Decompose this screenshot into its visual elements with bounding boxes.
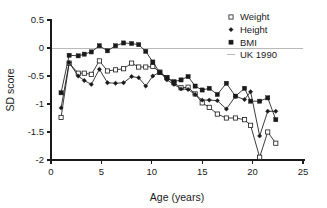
data-point-weight <box>105 69 109 73</box>
data-point-bmi <box>248 99 252 103</box>
data-point-height <box>97 67 101 71</box>
data-point-weight <box>215 112 219 116</box>
data-point-bmi <box>76 54 80 58</box>
data-point-height <box>113 81 117 85</box>
legend-marker-weight <box>229 15 233 19</box>
data-point-bmi <box>97 44 101 48</box>
y-tick-label: -1.5 <box>28 126 44 137</box>
y-tick-label: 0 <box>39 42 44 53</box>
y-tick-label: 0.5 <box>31 14 44 25</box>
x-tick-label: 0 <box>48 166 53 177</box>
data-point-height <box>105 81 109 85</box>
sd-score-chart: 0.50-0.5-1-1.5-20510152025Age (years)SD … <box>0 0 327 208</box>
data-point-bmi <box>207 86 211 90</box>
x-tick-label: 10 <box>147 166 158 177</box>
data-point-height <box>89 82 93 86</box>
data-point-bmi <box>193 84 197 88</box>
data-point-weight <box>130 61 134 65</box>
x-tick-label: 15 <box>197 166 208 177</box>
data-point-weight <box>97 59 101 63</box>
data-point-bmi <box>151 60 155 64</box>
data-point-bmi <box>215 92 219 96</box>
data-point-weight <box>121 67 125 71</box>
data-point-weight <box>144 65 148 69</box>
x-tick-label: 25 <box>298 166 309 177</box>
data-point-height <box>257 134 261 138</box>
x-axis-title: Age (years) <box>150 191 204 203</box>
data-point-bmi <box>200 88 204 92</box>
data-point-bmi <box>113 44 117 48</box>
data-point-bmi <box>89 50 93 54</box>
data-point-bmi <box>179 78 183 82</box>
x-tick-label: 5 <box>99 166 104 177</box>
data-point-bmi <box>172 80 176 84</box>
data-point-weight <box>258 155 262 159</box>
x-tick-label: 20 <box>247 166 258 177</box>
data-point-bmi <box>59 91 63 95</box>
data-point-bmi <box>158 71 162 75</box>
data-point-weight <box>242 118 246 122</box>
data-point-height <box>274 109 278 113</box>
data-point-weight <box>266 130 270 134</box>
legend-label-bmi: BMI <box>240 37 257 48</box>
legend-marker-bmi <box>229 40 233 44</box>
data-point-bmi <box>144 49 148 53</box>
y-axis-title: SD score <box>4 68 16 111</box>
data-point-weight <box>82 71 86 75</box>
data-point-bmi <box>224 81 228 85</box>
data-point-bmi <box>137 43 141 47</box>
data-point-height <box>207 98 211 102</box>
data-point-weight <box>274 141 278 145</box>
data-point-weight <box>248 123 252 127</box>
y-tick-label: -2 <box>36 154 44 165</box>
legend-label-uk-1990: UK 1990 <box>240 49 277 60</box>
data-point-bmi <box>258 99 262 103</box>
legend-label-weight: Weight <box>240 11 270 22</box>
data-point-weight <box>59 115 63 119</box>
data-point-height <box>266 109 270 113</box>
data-point-bmi <box>165 76 169 80</box>
y-tick-label: -1 <box>36 98 44 109</box>
data-point-bmi <box>266 96 270 100</box>
y-tick-label: -0.5 <box>28 70 44 81</box>
data-point-bmi <box>121 41 125 45</box>
data-point-bmi <box>242 86 246 90</box>
data-point-weight <box>151 64 155 68</box>
data-point-bmi <box>105 49 109 53</box>
data-point-weight <box>137 65 141 69</box>
data-point-bmi <box>233 94 237 98</box>
data-point-weight <box>89 72 93 76</box>
data-point-bmi <box>274 118 278 122</box>
legend-marker-height <box>229 27 233 31</box>
data-point-weight <box>113 68 117 72</box>
data-point-bmi <box>186 74 190 78</box>
data-point-bmi <box>67 53 71 57</box>
legend-label-height: Height <box>240 24 268 35</box>
chart-canvas: 0.50-0.5-1-1.5-20510152025Age (years)SD … <box>0 0 327 208</box>
data-point-weight <box>233 116 237 120</box>
data-point-weight <box>224 116 228 120</box>
data-point-bmi <box>130 41 134 45</box>
data-point-weight <box>207 105 211 109</box>
data-point-bmi <box>82 52 86 56</box>
